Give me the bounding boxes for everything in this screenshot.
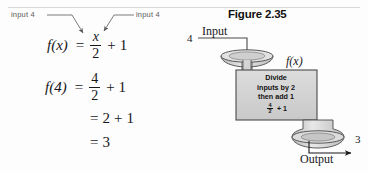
equals-sign: = [90, 134, 98, 151]
addend: 1 [120, 37, 128, 54]
process-line-3: then add 1 [237, 92, 315, 102]
equation-step-three: = 2 + 1 [86, 110, 134, 127]
process-line-1: Divide [237, 73, 315, 83]
value: 2 [102, 110, 110, 127]
fraction: 4 2 [267, 103, 273, 115]
equation-substituted: f(4) = 4 2 + 1 [45, 72, 126, 103]
process-expression: 4 2 + 1 [237, 103, 315, 115]
figure-page: input 4 input 4 f(x) = x 2 + 1 f(4) = 4 … [0, 0, 368, 172]
output-label: Output [300, 152, 333, 167]
addend: 1 [119, 79, 127, 96]
addend: 1 [126, 110, 134, 127]
input-value: 4 [187, 32, 193, 44]
equals-sign: = [75, 79, 83, 96]
fraction-numerator: x [91, 30, 101, 45]
input-funnel-icon [221, 50, 273, 72]
plus-sign: + [107, 37, 115, 54]
fraction: x 2 [90, 30, 101, 61]
equals-sign: = [76, 37, 84, 54]
equation-lhs: f(4) [45, 79, 67, 96]
figure-title: Figure 2.35 [228, 8, 287, 20]
output-value: 3 [355, 133, 361, 145]
input-label: Input [202, 24, 227, 39]
fraction-addend: + 1 [277, 104, 287, 114]
fraction-denominator: 2 [89, 88, 100, 103]
plus-sign: + [114, 110, 122, 127]
equation-lhs: f(x) [47, 37, 68, 54]
result-value: 3 [102, 134, 110, 151]
fraction-denominator: 2 [90, 46, 101, 61]
fraction-denominator: 2 [267, 109, 272, 115]
process-line-2: inputs by 2 [237, 83, 315, 93]
function-label: f(x) [286, 54, 303, 69]
callout-label-left: input 4 [11, 10, 35, 19]
equation-result: = 3 [86, 134, 110, 151]
process-box-text: Divide inputs by 2 then add 1 4 2 + 1 [237, 73, 315, 115]
equation-general: f(x) = x 2 + 1 [47, 30, 127, 61]
equals-sign: = [90, 110, 98, 127]
callout-leader-right [104, 15, 134, 31]
plus-sign: + [106, 79, 114, 96]
callout-label-right: input 4 [136, 10, 160, 19]
fraction-numerator: 4 [89, 72, 100, 87]
output-funnel-icon [292, 120, 344, 148]
fraction: 4 2 [89, 72, 100, 103]
